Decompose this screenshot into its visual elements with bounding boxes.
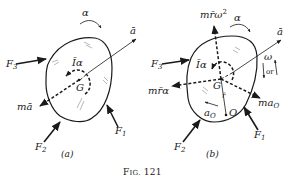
a-bar-label-b: ā — [277, 26, 283, 37]
inertia-force-label-a: mā — [17, 101, 32, 112]
force-f1-label-b: F1 — [253, 129, 265, 142]
force-f2-label-b: F2 — [173, 141, 186, 154]
force-f3-arrow-a — [16, 59, 46, 64]
accel-o-label-b: aO — [204, 107, 216, 120]
or-label-b: or — [266, 68, 274, 76]
center-g-label-b: G — [213, 80, 221, 91]
force-f2-arrow-a — [44, 122, 60, 142]
force-f1-arrow-b — [244, 107, 258, 130]
force-f1-arrow-a — [107, 105, 118, 127]
tangential-force-label-b: mr̄α — [148, 85, 169, 96]
panel-a: α ā F3 Īα G mā F2 F1 (a) — [5, 7, 136, 159]
panel-label-a: (a) — [61, 149, 74, 159]
centripetal-force-label-b: mr̄ω2 — [200, 8, 227, 20]
panel-b: mr̄ω2 α ā ω or F3 Īα G mr̄α r̄ O — [148, 8, 283, 159]
figure-121: α ā F3 Īα G mā F2 F1 (a) — [0, 0, 291, 183]
force-f2-label-a: F2 — [34, 141, 47, 154]
a-bar-label-a: ā — [130, 25, 136, 36]
alpha-rotation-arrow-a — [80, 21, 101, 28]
hatch-marks-a — [52, 42, 108, 110]
omega-arrow-b — [263, 63, 264, 78]
moment-ialpha-label-a: Īα — [71, 57, 83, 68]
force-f3-label-a: F3 — [5, 58, 18, 71]
radius-label-b: r̄ — [222, 92, 226, 100]
omega-label-b: ω — [264, 51, 272, 62]
hatch-marks-b — [202, 47, 240, 94]
force-f3-arrow-b — [162, 60, 189, 64]
force-f1-label-a: F1 — [114, 125, 126, 138]
point-o-dot-b — [225, 114, 228, 117]
alpha-label-b: α — [234, 12, 241, 23]
force-f2-arrow-b — [183, 120, 200, 142]
moment-ialpha-arrow-b — [212, 62, 234, 80]
panel-label-b: (b) — [206, 149, 219, 159]
moment-ialpha-label-b: Īα — [195, 59, 207, 70]
centripetal-force-arrow-b — [214, 26, 221, 79]
alpha-rotation-arrow-b — [230, 24, 250, 32]
point-o-label-b: O — [229, 107, 237, 118]
alpha-label-a: α — [82, 7, 89, 18]
accel-o-arrow-b — [205, 102, 218, 106]
force-f3-label-b: F3 — [150, 58, 163, 71]
ma-o-force-label-b: maO — [258, 97, 279, 110]
center-g-label-a: G — [76, 82, 84, 93]
figure-caption: FIG.121 — [123, 167, 162, 177]
omega-alt-arrow-b — [275, 60, 277, 75]
